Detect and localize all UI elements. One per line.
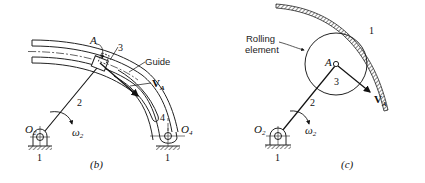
label-rolling-line2: element <box>245 44 279 55</box>
velocity-arrow-c <box>338 66 370 92</box>
leader-rolling <box>279 42 304 50</box>
label-omega-b: ω2 <box>72 126 84 140</box>
link-2-b <box>40 68 97 137</box>
ground-hatch-left <box>28 146 52 150</box>
pin-a-c <box>333 61 338 66</box>
diagram-canvas: A 3 Guide VA 2 4 O2 O4 ω2 1 1 (b) <box>0 0 425 183</box>
label-velocity-b: VA <box>152 77 165 92</box>
label-link-3-b: 3 <box>118 42 123 53</box>
label-omega-c: ω2 <box>305 124 317 138</box>
label-point-a-b: A <box>89 34 97 46</box>
pivot-o2-c <box>265 126 291 149</box>
mechanism-diagram: A 3 Guide VA 2 4 O2 O4 ω2 1 1 (b) <box>0 0 425 183</box>
figure-b: A 3 Guide VA 2 4 O2 O4 ω2 1 1 (b) <box>25 34 193 171</box>
label-rolling-line1: Rolling <box>246 33 275 44</box>
label-o2-b: O2 <box>25 123 37 137</box>
leader-guide <box>129 62 145 72</box>
figure-c: Rolling element 1 A 3 2 VA O2 ω2 1 (c) <box>245 4 388 171</box>
label-link-2-c: 2 <box>310 97 315 108</box>
caption-c: (c) <box>341 158 354 171</box>
label-ground-left-b: 1 <box>37 152 42 163</box>
label-o2-c: O2 <box>254 123 266 137</box>
label-point-a-c: A <box>324 56 332 68</box>
ground-hatch-right <box>156 146 180 150</box>
caption-b: (b) <box>90 158 103 171</box>
label-link-2-b: 2 <box>77 97 82 108</box>
label-guide: Guide <box>145 56 170 67</box>
label-ground-c: 1 <box>275 152 280 163</box>
label-link-4: 4 <box>160 112 165 123</box>
ground-hatch-c <box>265 145 291 149</box>
label-link-3-c: 3 <box>334 76 339 87</box>
pivot-o4 <box>150 126 185 150</box>
label-surface-1: 1 <box>369 25 374 36</box>
omega-arrow-b <box>50 112 72 124</box>
label-ground-right-b: 1 <box>165 152 170 163</box>
leader-3 <box>110 47 118 60</box>
label-velocity-c: VA <box>374 93 387 108</box>
label-o4: O4 <box>181 123 193 137</box>
